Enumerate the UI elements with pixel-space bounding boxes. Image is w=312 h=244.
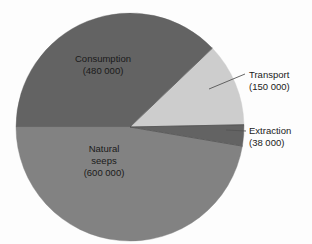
natural-seeps-label-name-line2: seeps xyxy=(91,155,117,166)
pie-slice-group xyxy=(16,13,244,241)
transport-label-name: Transport xyxy=(249,69,290,80)
extraction-label-value: (38 000) xyxy=(249,137,284,148)
consumption-label-value: (480 000) xyxy=(83,65,124,76)
pie-chart: Consumption (480 000) Natural seeps (600… xyxy=(0,0,312,244)
slice-callout-transport: Transport (150 000) xyxy=(249,69,290,92)
natural-seeps-label-value: (600 000) xyxy=(84,167,125,178)
pie-chart-canvas: Consumption (480 000) Natural seeps (600… xyxy=(0,0,312,244)
transport-label-value: (150 000) xyxy=(249,81,290,92)
slice-label-consumption: Consumption (480 000) xyxy=(75,53,131,76)
extraction-label-name: Extraction xyxy=(249,125,291,136)
consumption-label-name: Consumption xyxy=(75,53,131,64)
natural-seeps-label-name-line1: Natural xyxy=(89,143,120,154)
